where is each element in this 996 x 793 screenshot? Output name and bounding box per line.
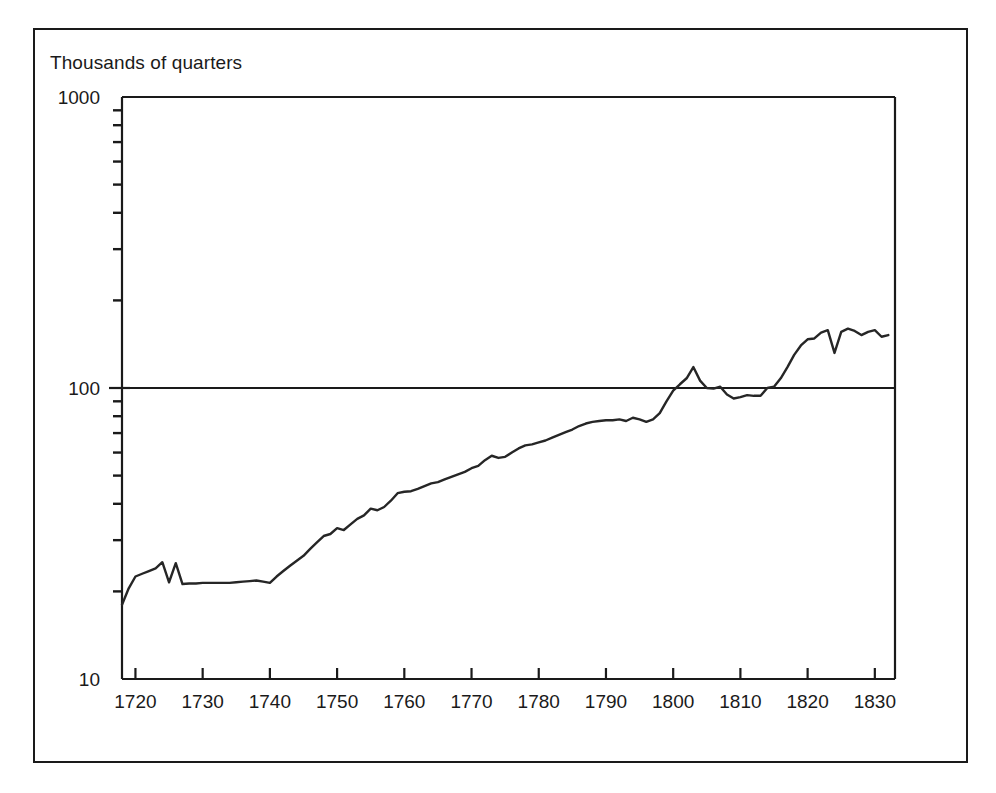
y-tick-label: 1000: [58, 87, 100, 108]
chart-plot-area: 1000100101720173017401750176017701780179…: [0, 0, 996, 793]
x-tick-label: 1770: [450, 691, 492, 712]
x-tick-label: 1740: [249, 691, 291, 712]
y-tick-label: 10: [79, 669, 100, 690]
x-tick-label: 1800: [652, 691, 694, 712]
x-tick-label: 1810: [719, 691, 761, 712]
data-series-line: [122, 329, 888, 605]
y-tick-label: 100: [68, 378, 100, 399]
x-tick-label: 1780: [518, 691, 560, 712]
x-tick-label: 1830: [854, 691, 896, 712]
x-tick-label: 1720: [114, 691, 156, 712]
x-tick-label: 1760: [383, 691, 425, 712]
x-tick-label: 1730: [182, 691, 224, 712]
figure-container: Thousands of quarters 100010010172017301…: [0, 0, 996, 793]
x-tick-label: 1820: [786, 691, 828, 712]
x-tick-label: 1790: [585, 691, 627, 712]
x-tick-label: 1750: [316, 691, 358, 712]
